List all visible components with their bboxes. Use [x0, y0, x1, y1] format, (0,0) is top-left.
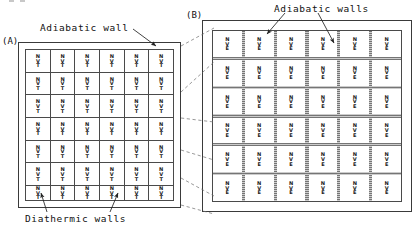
cell-line-e: E: [321, 190, 324, 195]
nvt-cell: N V T: [100, 73, 124, 95]
nvt-cell: N V T: [125, 73, 149, 95]
cell-line-t: T: [36, 131, 39, 136]
nve-cell: N V E: [372, 175, 401, 201]
cell-line-e: E: [226, 46, 229, 51]
cell-line-e: E: [289, 46, 292, 51]
nvt-cell: N V T: [100, 163, 124, 185]
nve-cell: N V E: [277, 89, 306, 115]
cell-line-t: T: [36, 63, 39, 68]
nvt-cell: N V T: [51, 73, 75, 95]
cell-line-t: T: [110, 195, 113, 200]
nvt-cell: N V T: [26, 50, 50, 72]
nvt-cell: N V T: [75, 163, 99, 185]
nvt-cell: N V T: [100, 141, 124, 163]
nvt-cell: N V T: [125, 163, 149, 185]
nve-cell: N V E: [309, 118, 338, 144]
cell-line-e: E: [257, 190, 260, 195]
nvt-cell: N V T: [100, 50, 124, 72]
cell-line-e: E: [257, 104, 260, 109]
nvt-cell: N V T: [51, 186, 75, 200]
cell-line-t: T: [135, 154, 138, 159]
cell-line-e: E: [353, 75, 356, 80]
nvt-cell: N V T: [100, 118, 124, 140]
nve-cell: N V E: [277, 146, 306, 172]
nve-cell: N V E: [340, 89, 369, 115]
cell-line-t: T: [159, 86, 162, 91]
cell-line-t: T: [135, 86, 138, 91]
cell-line-t: T: [85, 177, 88, 182]
nvt-cell: N V T: [125, 141, 149, 163]
cell-line-t: T: [110, 86, 113, 91]
nve-cell: N V E: [309, 60, 338, 86]
nvt-cell: N V T: [75, 118, 99, 140]
nve-cell: N V E: [245, 31, 274, 57]
cell-line-t: T: [110, 154, 113, 159]
nve-cell: N V E: [309, 89, 338, 115]
nvt-cell: N V T: [26, 186, 50, 200]
nve-cell: N V E: [213, 60, 242, 86]
cell-line-e: E: [257, 75, 260, 80]
nvt-cell: N V T: [125, 118, 149, 140]
nvt-cell: N V T: [26, 95, 50, 117]
nve-cell: N V E: [277, 60, 306, 86]
cell-line-t: T: [159, 195, 162, 200]
nvt-cell: N V T: [51, 118, 75, 140]
nve-cell: N V E: [245, 89, 274, 115]
nve-cell: N V E: [213, 175, 242, 201]
nve-cell: N V E: [213, 118, 242, 144]
cell-line-t: T: [85, 63, 88, 68]
nvt-cell: N V T: [149, 186, 173, 200]
nve-cell: N V E: [340, 60, 369, 86]
nvt-cell: N V T: [51, 163, 75, 185]
nve-cell: N V E: [340, 175, 369, 201]
cell-line-t: T: [61, 131, 64, 136]
nvt-cell: N V T: [125, 186, 149, 200]
nve-cell: N V E: [340, 118, 369, 144]
nve-cell: N V E: [340, 31, 369, 57]
nve-cell: N V E: [372, 118, 401, 144]
cell-line-e: E: [289, 104, 292, 109]
cell-line-e: E: [353, 104, 356, 109]
cell-line-e: E: [385, 162, 388, 167]
nve-cell: N V E: [372, 31, 401, 57]
cell-line-e: E: [226, 75, 229, 80]
panel-b-tag: (B): [186, 10, 202, 20]
nve-cell: N V E: [245, 175, 274, 201]
nve-cell: N V E: [340, 146, 369, 172]
cell-line-e: E: [353, 162, 356, 167]
cell-line-t: T: [135, 109, 138, 114]
nvt-cell: N V T: [149, 141, 173, 163]
nvt-cell: N V T: [75, 141, 99, 163]
cell-line-t: T: [85, 131, 88, 136]
nvt-cell: N V T: [149, 163, 173, 185]
cell-line-t: T: [159, 63, 162, 68]
cell-line-e: E: [289, 75, 292, 80]
nvt-cell: N V T: [75, 73, 99, 95]
cell-line-e: E: [257, 162, 260, 167]
cell-line-t: T: [36, 177, 39, 182]
cell-line-t: T: [135, 177, 138, 182]
cell-line-t: T: [159, 177, 162, 182]
nve-cell: N V E: [277, 31, 306, 57]
nvt-cell: N V T: [125, 50, 149, 72]
cell-line-e: E: [289, 133, 292, 138]
cell-line-t: T: [110, 109, 113, 114]
cell-line-t: T: [61, 195, 64, 200]
cell-line-e: E: [321, 46, 324, 51]
cell-line-e: E: [353, 133, 356, 138]
nve-cell: N V E: [213, 31, 242, 57]
nve-cell: N V E: [245, 60, 274, 86]
nve-cell: N V E: [277, 175, 306, 201]
nve-cell: N V E: [309, 175, 338, 201]
cell-line-t: T: [85, 109, 88, 114]
cell-line-e: E: [226, 190, 229, 195]
nve-cell: N V E: [213, 89, 242, 115]
nvt-cell: N V T: [26, 73, 50, 95]
nve-cell: N V E: [309, 146, 338, 172]
cell-line-e: E: [385, 46, 388, 51]
nve-cell: N V E: [372, 89, 401, 115]
nve-cell: N V E: [213, 146, 242, 172]
nvt-cell: N V T: [26, 163, 50, 185]
cell-line-e: E: [257, 133, 260, 138]
adiabatic-wall-label: Adiabatic wall: [40, 22, 128, 33]
